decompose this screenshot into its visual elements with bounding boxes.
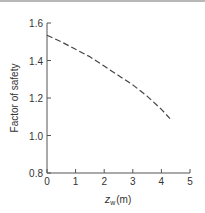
y-tick-label: 1.0 — [29, 131, 43, 142]
y-tick-label: 0.8 — [29, 168, 43, 179]
x-tick-label: 1 — [73, 176, 79, 187]
x-tick-label: 4 — [159, 176, 165, 187]
ticks: 0123450.81.01.21.41.6 — [29, 18, 193, 187]
x-tick-label: 5 — [187, 176, 193, 187]
factor-of-safety-curve — [47, 35, 170, 118]
y-tick-label: 1.4 — [29, 56, 43, 67]
x-tick-label: 2 — [101, 176, 107, 187]
y-tick-label: 1.2 — [29, 93, 43, 104]
chart: 0123450.81.01.21.41.6 Factor of safety z… — [0, 0, 205, 213]
y-axis-label: Factor of safety — [9, 64, 20, 133]
x-axis-label: zw(m) — [104, 193, 132, 206]
x-tick-label: 3 — [130, 176, 136, 187]
x-tick-label: 0 — [44, 176, 50, 187]
y-tick-label: 1.6 — [29, 18, 43, 29]
